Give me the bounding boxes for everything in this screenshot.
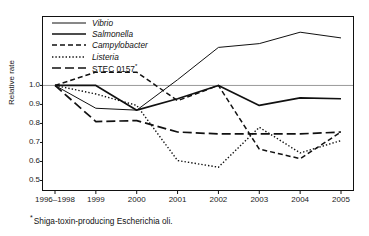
chart-figure: Relative rate 0.50.60.70.80.91.0 1996–19… <box>0 0 369 236</box>
legend-label: STEC 0157* <box>92 63 137 74</box>
legend-line-sample <box>52 40 86 50</box>
footnote-text: Shiga-toxin-producing Escherichia oli. <box>34 216 173 226</box>
footnote: *Shiga-toxin-producing Escherichia oli. <box>30 214 173 226</box>
x-tick-label: 2003 <box>250 195 268 204</box>
legend-line-sample <box>52 63 86 73</box>
legend-line-sample <box>52 52 86 62</box>
y-tick-label: 0.7 <box>16 137 40 146</box>
legend-item-stec-0157: STEC 0157* <box>52 63 148 74</box>
legend-line-sample <box>52 18 86 28</box>
legend-line-sample <box>52 29 86 39</box>
legend-item-campylobacter: Campylobacter <box>52 40 148 51</box>
footnote-marker: * <box>30 214 33 221</box>
y-tick-label: 0.9 <box>16 99 40 108</box>
x-tick-label: 2002 <box>210 195 228 204</box>
legend-item-salmonella: Salmonella <box>52 28 148 39</box>
legend: VibrioSalmonellaCampylobacterListeriaSTE… <box>52 17 148 74</box>
x-tick-label: 1999 <box>87 195 105 204</box>
y-tick-label: 0.6 <box>16 156 40 165</box>
legend-label: Campylobacter <box>92 40 148 50</box>
x-tick-label: 2001 <box>169 195 187 204</box>
x-tick-label: 2005 <box>332 195 350 204</box>
x-tick-label: 2000 <box>128 195 146 204</box>
x-axis-tick-labels: 1996–19981999200020012002200320042005 <box>0 195 369 209</box>
y-tick-label: 0.8 <box>16 118 40 127</box>
x-tick-label: 1996–1998 <box>35 195 75 204</box>
y-tick-label: 0.5 <box>16 175 40 184</box>
legend-item-vibrio: Vibrio <box>52 17 148 28</box>
legend-label: Salmonella <box>92 29 133 39</box>
legend-label: Listeria <box>92 52 119 62</box>
legend-item-listeria: Listeria <box>52 51 148 62</box>
y-tick-label: 1.0 <box>16 80 40 89</box>
x-tick-label: 2004 <box>291 195 309 204</box>
legend-label: Vibrio <box>92 18 113 28</box>
legend-label-superscript: * <box>135 63 137 69</box>
